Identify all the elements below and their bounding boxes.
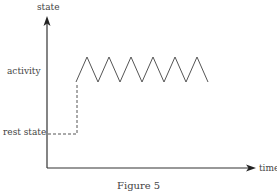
activity-level-label: activity xyxy=(7,66,41,76)
figure-caption: Figure 5 xyxy=(117,180,160,191)
rest-state-level-label: rest state xyxy=(3,127,46,137)
state-time-diagram xyxy=(0,0,277,192)
activity-zigzag-line xyxy=(76,57,208,82)
rest-state-dashed-line xyxy=(48,84,77,134)
x-axis-label: time xyxy=(259,163,277,173)
y-axis-label: state xyxy=(37,2,60,12)
